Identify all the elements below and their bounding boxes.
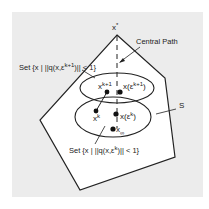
x-k1-label: xk+1 xyxy=(98,81,112,91)
point-x-inf xyxy=(110,126,115,131)
x-inf-label: x∞ xyxy=(116,126,124,136)
central-path-label: Central Path xyxy=(136,38,178,46)
lower-set-label: Set {x | ||q(x,εk)|| < 1} xyxy=(69,145,139,155)
point-x-eps-k xyxy=(113,111,118,116)
S-label: S xyxy=(179,102,184,110)
x-eps-k-label: x(εk) xyxy=(120,111,136,121)
feasible-region-polygon xyxy=(40,35,175,190)
upper-set-label: Set {x | ||q(x,εk+1)|| < 1} xyxy=(19,62,96,72)
point-x-eps-k1 xyxy=(117,89,122,94)
x-k-label: xk xyxy=(93,113,100,123)
diagram-svg xyxy=(0,0,209,209)
x-eps-k1-label: x(εk+1) xyxy=(123,81,146,91)
x-star-label: x* xyxy=(112,22,118,32)
diagram-canvas: x* Central Path Set {x | ||q(x,εk+1)|| <… xyxy=(0,0,209,209)
